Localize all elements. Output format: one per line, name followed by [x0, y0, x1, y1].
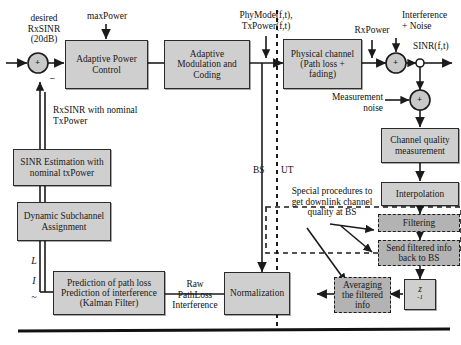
block-label: Channel quality measurement — [382, 135, 458, 155]
block-physical-channel[interactable]: Physical channel (Path loss + fading) — [283, 39, 362, 89]
block-label: Filtering — [401, 218, 437, 228]
block-label: Adaptive Modulation and Coding — [165, 49, 249, 79]
bottom-rule — [18, 329, 450, 331]
block-label: Dynamic Subchannel Assignment — [18, 211, 110, 231]
diagram-canvas: Adaptive Power Control Adaptive Modulati… — [0, 0, 461, 345]
block-label: Prediction of path loss Prediction of in… — [54, 278, 164, 308]
label-desired-rxsinr: desired RxSINR (20dB) — [14, 13, 74, 45]
block-normalization[interactable]: Normalization — [224, 272, 290, 315]
signal-tap-node — [416, 59, 424, 67]
summer-1-minus-sign: – — [50, 72, 55, 82]
block-prediction-kalman[interactable]: Prediction of path loss Prediction of in… — [53, 271, 165, 315]
block-label: Physical channel (Path loss + fading) — [284, 49, 361, 79]
block-averaging-filtered-info[interactable]: Averaging the filtered info — [334, 277, 391, 313]
summer-2-plus-sign: + — [393, 57, 398, 67]
summer-1-plus-sign: + — [35, 57, 40, 67]
label-rxsinr-nominal: RxSINR with nominal TxPower — [53, 105, 173, 126]
block-channel-quality-measurement[interactable]: Channel quality measurement — [381, 128, 459, 163]
block-label: Interpolation — [394, 189, 446, 199]
block-label: Normalization — [228, 288, 286, 298]
label-var-i: I — [28, 275, 40, 286]
label-phymode-txpower: PhyMode(f,t), TxPower(f,t) — [218, 10, 314, 31]
label-var-l: L — [28, 255, 40, 266]
block-label: z-1 — [414, 284, 426, 305]
block-dynamic-subchannel-assignment[interactable]: Dynamic Subchannel Assignment — [17, 202, 111, 241]
label-raw-pathloss: Raw PathLoss Interference — [170, 279, 220, 311]
block-interpolation[interactable]: Interpolation — [381, 182, 459, 206]
block-filtering[interactable]: Filtering — [378, 214, 460, 232]
label-bs: BS — [253, 165, 271, 176]
block-adaptive-power-control[interactable]: Adaptive Power Control — [65, 40, 148, 89]
block-adaptive-modulation-coding[interactable]: Adaptive Modulation and Coding — [164, 40, 250, 89]
z-exponent: -1 — [417, 293, 423, 301]
label-max-power: maxPower — [78, 11, 136, 22]
label-interference-noise: Interference + Noise — [402, 10, 461, 31]
label-measurement-noise: Measurement noise — [313, 92, 383, 113]
label-ut: UT — [281, 165, 299, 176]
block-label: Send filtered info back to BS — [379, 243, 459, 263]
summer-3-plus-sign: + — [417, 94, 422, 104]
block-sinr-estimation[interactable]: SINR Estimation with nominal txPower — [13, 149, 111, 186]
block-label: Averaging the filtered info — [335, 280, 390, 310]
label-special-procedures: Special procedures to get downlink chann… — [282, 186, 382, 218]
block-label: Adaptive Power Control — [66, 54, 147, 74]
label-rx-power: RxPower — [344, 25, 400, 36]
label-var-dash: ~ — [28, 291, 40, 302]
block-z-inverse[interactable]: z-1 — [404, 279, 436, 310]
block-label: SINR Estimation with nominal txPower — [14, 157, 110, 177]
label-sinr-ft: SINR(f,t) — [413, 41, 461, 52]
block-send-filtered-info[interactable]: Send filtered info back to BS — [378, 240, 460, 266]
